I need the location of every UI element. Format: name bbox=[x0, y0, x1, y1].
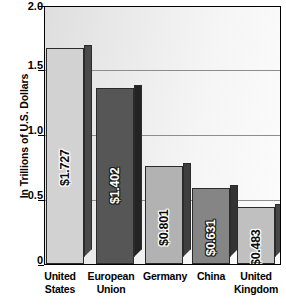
bar-side-face-united-kingdom bbox=[275, 204, 281, 257]
category-label-line1: European bbox=[81, 270, 141, 283]
bar-front-face-china bbox=[192, 188, 230, 264]
category-label-line1: Germany bbox=[136, 270, 194, 283]
bar-front-face-germany bbox=[145, 166, 183, 264]
category-label-line1: United bbox=[226, 270, 286, 283]
bar-front-face-united-states bbox=[46, 48, 84, 264]
bar-side-face-european-union bbox=[134, 85, 142, 257]
bar-side-face-germany bbox=[183, 163, 191, 257]
bar-front-face-european-union bbox=[96, 88, 134, 264]
category-label-european-union: European Union bbox=[81, 270, 141, 295]
bar-chart-figure: In Trillions of U.S. Dollars 2.0 1.5 1.0… bbox=[0, 0, 286, 306]
y-tick-mark-0 bbox=[38, 265, 44, 266]
category-label-line2: Kingdom bbox=[226, 283, 286, 296]
category-label-united-states: United States bbox=[33, 270, 87, 295]
category-label-germany: Germany bbox=[136, 270, 194, 283]
category-label-line2: States bbox=[33, 283, 87, 296]
category-label-united-kingdom: United Kingdom bbox=[226, 270, 286, 295]
bar-side-face-united-states bbox=[84, 45, 92, 257]
category-label-line1: United bbox=[33, 270, 87, 283]
bar-front-face-united-kingdom bbox=[237, 207, 275, 264]
plot-area: $1.727 $1.402 $0.801 $0.631 bbox=[44, 6, 281, 265]
category-label-line2: Union bbox=[81, 283, 141, 296]
